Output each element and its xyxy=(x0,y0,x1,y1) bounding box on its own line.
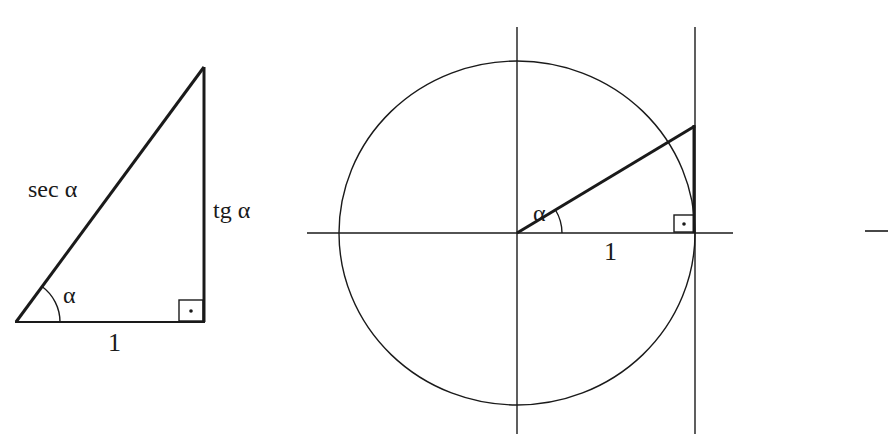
alpha-label: α xyxy=(63,282,76,308)
unit-circle-figure: α 1 xyxy=(307,27,733,434)
one-label: 1 xyxy=(108,328,121,357)
angle-arc xyxy=(42,287,60,323)
diagram-canvas: sec α tg α α 1 α 1 xyxy=(0,0,888,434)
left-triangle: sec α tg α α 1 xyxy=(15,67,251,357)
right-angle-dot xyxy=(682,222,686,226)
angle-arc xyxy=(556,210,563,233)
alpha-label: α xyxy=(533,200,546,226)
sec-alpha-label: sec α xyxy=(28,176,78,202)
tg-alpha-label: tg α xyxy=(213,197,251,223)
one-label: 1 xyxy=(604,237,617,266)
right-angle-dot xyxy=(189,309,193,313)
